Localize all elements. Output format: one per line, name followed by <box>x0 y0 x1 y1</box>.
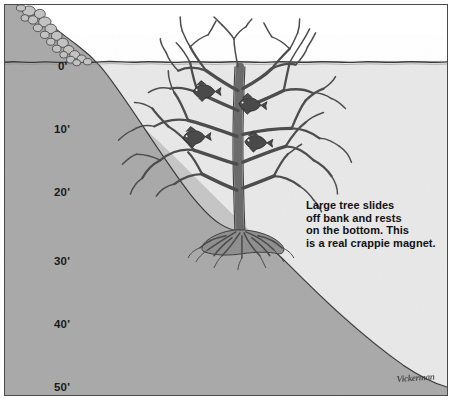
depth-label-20: 20' <box>54 187 70 199</box>
rock <box>60 51 68 58</box>
caption-line-4: is a real crappie magnet. <box>306 237 448 250</box>
rock <box>21 15 29 22</box>
depth-label-50: 50' <box>54 382 70 394</box>
rock <box>16 5 25 11</box>
rock <box>73 60 81 66</box>
caption-line-2: off bank and rests <box>306 212 448 225</box>
caption-line-3: on the bottom. This <box>306 224 448 237</box>
illustration-frame: 0' 10' 20' 30' 40' 50' Large tree slides… <box>0 0 452 400</box>
rock <box>33 24 42 32</box>
rock <box>47 38 55 45</box>
rock <box>52 45 61 52</box>
depth-label-0: 0' <box>58 61 68 73</box>
depth-label-10: 10' <box>54 124 70 136</box>
caption-line-1: Large tree slides <box>306 199 448 212</box>
illustration-plate: 0' 10' 20' 30' 40' 50' Large tree slides… <box>4 4 448 396</box>
depth-label-40: 40' <box>54 319 70 331</box>
rock <box>40 31 49 38</box>
caption-block: Large tree slides off bank and rests on … <box>306 199 448 249</box>
rock <box>83 59 91 65</box>
rock <box>28 16 38 24</box>
depth-label-30: 30' <box>54 256 70 268</box>
